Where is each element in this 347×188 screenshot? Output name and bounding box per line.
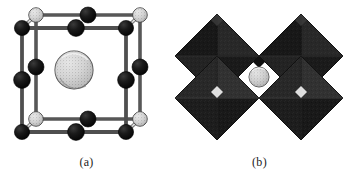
figure-container: (a) bbox=[0, 0, 347, 188]
panel-b: (b) bbox=[173, 0, 346, 188]
edge-midpoint-atom bbox=[28, 59, 44, 75]
corner-atom bbox=[133, 112, 147, 126]
edge-midpoint-atom bbox=[14, 72, 31, 89]
corner-atom bbox=[14, 20, 29, 35]
edge-midpoint-atom bbox=[80, 111, 96, 127]
edge-midpoint-atom bbox=[132, 59, 148, 75]
panel-a: (a) bbox=[0, 0, 173, 188]
edge-midpoint-atom bbox=[80, 7, 96, 23]
body-center-atom bbox=[55, 51, 93, 89]
corner-atom bbox=[133, 8, 147, 22]
corner-atom bbox=[29, 112, 43, 126]
corner-atom bbox=[14, 124, 29, 139]
edge-midpoint-atom bbox=[68, 124, 85, 141]
panel-b-caption: (b) bbox=[252, 156, 267, 168]
central-cation bbox=[249, 67, 269, 87]
unit-cell-diagram bbox=[0, 0, 173, 155]
octahedra-diagram bbox=[173, 0, 346, 155]
edge-midpoint-atom bbox=[118, 72, 135, 89]
panel-b-artwork bbox=[173, 0, 346, 155]
corner-atom bbox=[118, 124, 133, 139]
corner-atom bbox=[118, 20, 133, 35]
edge-midpoint-atom bbox=[68, 20, 85, 37]
corner-atom bbox=[29, 8, 43, 22]
panel-a-caption: (a) bbox=[79, 156, 93, 168]
panel-a-artwork bbox=[0, 0, 173, 155]
